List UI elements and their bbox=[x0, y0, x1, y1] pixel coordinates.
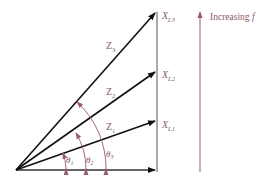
label-z1: Z1 bbox=[106, 121, 115, 134]
label-xl3: XL3 bbox=[161, 10, 176, 23]
label-xl2: XL2 bbox=[161, 69, 176, 82]
label-theta1: θ1 bbox=[66, 155, 73, 166]
impedance-phasor-diagram: Z3 Z2 Z1 XL3 XL2 XL1 θ1 θ2 θ3 Increasing… bbox=[0, 0, 269, 179]
label-z2: Z2 bbox=[106, 86, 115, 99]
increasing-frequency-label: Increasing f bbox=[210, 12, 256, 22]
angle-arc-theta3 bbox=[77, 102, 106, 169]
label-theta2: θ2 bbox=[86, 155, 93, 166]
label-z3: Z3 bbox=[106, 40, 115, 53]
angle-arc-theta2 bbox=[76, 133, 86, 169]
vector-z3 bbox=[16, 13, 155, 170]
label-xl1: XL1 bbox=[161, 119, 175, 132]
label-theta3: θ3 bbox=[106, 149, 113, 160]
